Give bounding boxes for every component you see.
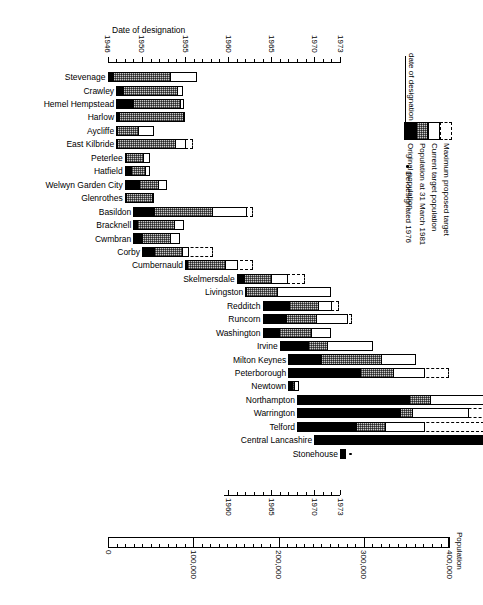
population-axis-tick xyxy=(364,537,365,548)
population-axis-tick-label: 300,000 xyxy=(359,550,367,590)
bar-original-population-skelmersdale xyxy=(237,274,246,284)
population-axis-tick-label: 200,000 xyxy=(274,550,282,590)
bar-original-population-newtown xyxy=(288,381,293,391)
population-axis-tick-label: 400,000 xyxy=(445,550,453,590)
de-designated-footnote: De-designated 1976 xyxy=(404,171,412,243)
top-axis-tick xyxy=(314,57,315,62)
legend-label-population_1981: Population at 31 March 1981 xyxy=(418,143,426,253)
population-axis-tick xyxy=(321,544,322,548)
bar-original-population-peterborough xyxy=(288,368,361,378)
legend-label-current_target: Current target population xyxy=(430,143,438,253)
bar-original-population-washington xyxy=(263,328,280,338)
top-axis-tick xyxy=(271,57,272,62)
bar-original-population-cwmbran xyxy=(133,233,143,243)
bar-population-1981-peterlee xyxy=(125,153,144,163)
legend-swatch-current_target xyxy=(428,122,440,140)
bar-population-1981-crawley xyxy=(116,86,178,96)
lower-date-axis-tick xyxy=(228,490,229,495)
population-axis-tick xyxy=(159,544,160,548)
row-label-irvine: Irvine xyxy=(0,341,278,351)
bar-original-population-hemel-hempstead xyxy=(116,99,134,109)
top-axis-tick xyxy=(108,57,109,62)
bar-original-population-telford xyxy=(297,422,357,432)
row-label-redditch: Redditch xyxy=(0,301,261,311)
bar-original-population-warrington xyxy=(297,408,401,418)
de-designated-marker-icon xyxy=(406,165,409,168)
bar-original-population-redditch xyxy=(263,301,290,311)
row-label-east-kilbride: East Kilbride xyxy=(0,139,114,149)
lower-date-axis-tick-label: 1970 xyxy=(310,498,318,520)
bar-population-1981-bracknell xyxy=(133,220,175,230)
top-axis-tick-label: 1946 xyxy=(103,35,111,57)
top-axis-tick xyxy=(185,57,186,62)
bar-original-population-northampton xyxy=(297,395,410,405)
row-label-runcorn: Runcorn xyxy=(0,314,261,324)
population-axis-tick xyxy=(125,544,126,548)
bar-original-population-hatfield xyxy=(125,166,132,176)
population-axis-tick xyxy=(313,544,314,548)
row-label-bracknell: Bracknell xyxy=(0,220,131,230)
row-label-warrington: Warrington xyxy=(0,408,295,418)
bar-population-1981-east-kilbride xyxy=(116,139,176,149)
population-axis-tick xyxy=(202,544,203,548)
top-axis-tick xyxy=(159,59,160,62)
row-label-central-lancashire: Central Lancashire xyxy=(0,435,312,445)
row-label-peterborough: Peterborough xyxy=(0,368,286,378)
lower-date-axis-tick xyxy=(331,492,332,495)
population-axis-tick xyxy=(270,544,271,548)
top-axis-tick-label: 1955 xyxy=(181,35,189,57)
legend-swatch-population_1981 xyxy=(416,122,428,140)
population-axis-tick xyxy=(389,544,390,548)
legend-label-max_proposed: Maximum proposed target xyxy=(442,143,450,253)
population-axis-tick xyxy=(219,544,220,548)
legend-axis-title: date of designation xyxy=(407,53,415,121)
row-label-stevenage: Stevenage xyxy=(0,72,106,82)
top-axis-tick xyxy=(245,59,246,62)
population-axis-tick xyxy=(355,544,356,548)
top-date-axis-line xyxy=(108,62,342,63)
top-axis-tick xyxy=(237,59,238,62)
lower-date-axis-tick-label: 1973 xyxy=(336,498,344,520)
top-axis-tick xyxy=(168,59,169,62)
top-axis-tick xyxy=(288,59,289,62)
lower-date-axis-tick-label: 1960 xyxy=(224,498,232,520)
top-axis-tick-label: 1973 xyxy=(336,35,344,57)
population-axis-tick xyxy=(296,544,297,548)
bar-original-population-crawley xyxy=(116,86,124,96)
top-axis-tick-label: 1950 xyxy=(137,35,145,57)
bar-original-population-corby xyxy=(142,247,155,257)
bar-original-population-central-lancashire xyxy=(314,435,483,445)
row-label-skelmersdale: Skelmersdale xyxy=(0,274,235,284)
bar-original-population-peterlee xyxy=(125,153,127,163)
lower-date-axis-tick xyxy=(271,490,272,495)
top-axis-title: Date of designation xyxy=(112,26,185,35)
bar-original-population-glenrothes xyxy=(125,193,127,203)
row-label-aycliffe: Aycliffe xyxy=(0,126,114,136)
population-axis-tick xyxy=(185,544,186,548)
row-label-glenrothes: Glenrothes xyxy=(0,193,123,203)
top-axis-tick xyxy=(219,59,220,62)
row-label-crawley: Crawley xyxy=(0,86,114,96)
row-label-hatfield: Hatfield xyxy=(0,166,123,176)
bar-original-population-runcorn xyxy=(263,314,287,324)
lower-date-axis-tick xyxy=(314,490,315,495)
population-axis-tick xyxy=(432,544,433,548)
population-axis-tick xyxy=(142,544,143,548)
population-axis-tick xyxy=(415,544,416,548)
bar-original-population-livingston xyxy=(245,287,247,297)
top-axis-tick xyxy=(280,59,281,62)
de-designated-marker-icon xyxy=(349,453,352,456)
bar-population-1981-aycliffe xyxy=(116,126,139,136)
population-axis-tick xyxy=(398,544,399,548)
population-axis-tick xyxy=(279,537,280,548)
row-label-livingston: Livingston xyxy=(0,287,243,297)
bar-original-population-milton-keynes xyxy=(288,354,322,364)
top-axis-tick xyxy=(202,59,203,62)
row-label-corby: Corby xyxy=(0,247,140,257)
top-axis-tick xyxy=(331,59,332,62)
bar-population-1981-glenrothes xyxy=(125,193,153,203)
row-label-basildon: Basildon xyxy=(0,207,131,217)
population-axis-tick xyxy=(236,544,237,548)
top-axis-tick xyxy=(151,59,152,62)
population-axis-tick xyxy=(449,537,450,548)
